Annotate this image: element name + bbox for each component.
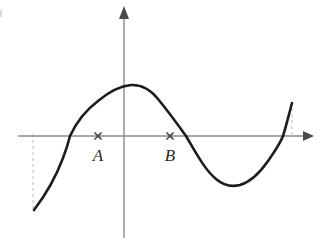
function-graph-figure: A B xyxy=(0,0,328,242)
point-label-b: B xyxy=(165,146,176,165)
figure-background xyxy=(0,0,328,242)
point-label-a: A xyxy=(92,146,104,165)
edge-artifact-speck xyxy=(0,10,2,17)
